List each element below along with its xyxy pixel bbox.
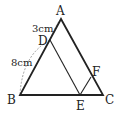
measure-db: 8cm [11, 57, 33, 68]
label-e: E [76, 99, 85, 113]
label-c: C [105, 93, 114, 107]
label-f: F [92, 65, 100, 79]
triangle-diagram: A B C D E F 3cm 8cm [0, 0, 116, 117]
segment-de [50, 40, 80, 95]
label-b: B [7, 93, 16, 107]
label-d: D [38, 34, 48, 48]
segment-ef [80, 77, 91, 95]
measure-ad: 3cm [32, 23, 54, 34]
label-a: A [55, 4, 65, 18]
